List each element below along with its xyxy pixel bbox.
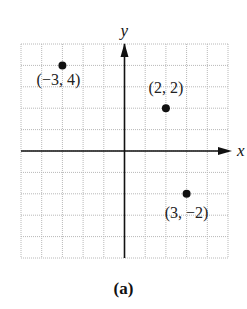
axes: x y [21, 21, 245, 258]
x-axis-arrow-icon [218, 147, 232, 155]
coordinate-plane-figure: x y (−3, 4)(2, 2)(3, −2) [0, 0, 247, 309]
y-axis-label: y [119, 21, 129, 40]
data-point-label: (2, 2) [149, 79, 184, 97]
data-point-marker [58, 61, 66, 69]
data-point-marker [183, 190, 191, 198]
data-point-label: (3, −2) [165, 204, 209, 222]
data-point-marker [162, 104, 170, 112]
x-axis-label: x [236, 141, 245, 160]
figure-caption: (a) [0, 279, 247, 299]
data-point-label: (−3, 4) [37, 71, 81, 89]
y-axis-arrow-icon [121, 43, 129, 57]
data-points: (−3, 4)(2, 2)(3, −2) [37, 61, 209, 221]
